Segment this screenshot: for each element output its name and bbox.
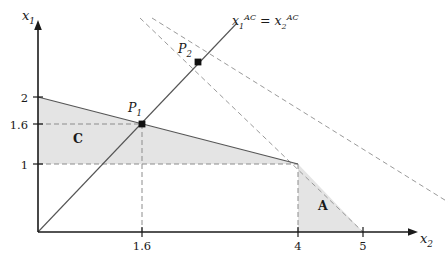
y-axis-label-sub: 1 <box>29 16 35 26</box>
point-label-p2-sub: 2 <box>185 49 191 59</box>
ray-label-lhs-sub: 1 <box>239 22 244 31</box>
y-axis-arrowhead <box>34 20 42 30</box>
diagram-svg: x1 x2 2 1.6 1 1.6 4 5 P1 P2 C A x1AC = x… <box>0 0 448 257</box>
y-tick-label-2: 2 <box>21 91 28 105</box>
ray-label-rhs-sub: 2 <box>281 22 287 31</box>
x-axis-label: x2 <box>420 231 433 249</box>
point-label-p1: P1 <box>127 100 142 118</box>
region-label-c: C <box>73 131 83 146</box>
y-tick-label-1: 1 <box>21 158 28 172</box>
figure-canvas: x1 x2 2 1.6 1 1.6 4 5 P1 P2 C A x1AC = x… <box>0 0 448 257</box>
y-axis-label: x1 <box>22 8 35 26</box>
ray-label-eq: = <box>256 13 274 28</box>
equal-allocation-ray-label: x1AC = x2AC <box>232 13 299 31</box>
dashed-steep-line <box>140 18 363 232</box>
x-tick-label-5: 5 <box>359 239 366 253</box>
point-marker-p2 <box>195 59 202 66</box>
ray-label-rhs-sup: AC <box>286 13 299 22</box>
x-axis-label-sub: 2 <box>426 239 433 249</box>
point-label-p2: P2 <box>177 41 192 59</box>
point-marker-p1 <box>139 121 146 128</box>
ray-label-rhs-base: x <box>274 13 281 28</box>
x-tick-label-1point6: 1.6 <box>133 239 151 253</box>
ray-label-lhs-sup: AC <box>243 13 256 22</box>
region-label-a: A <box>317 198 328 213</box>
y-tick-label-1point6: 1.6 <box>10 118 28 132</box>
ray-label-lhs-base: x <box>232 13 239 28</box>
region-a-shape <box>298 164 363 232</box>
point-label-p1-sub: 1 <box>136 108 141 118</box>
x-axis-arrowhead <box>408 228 418 236</box>
x-tick-label-4: 4 <box>294 239 301 253</box>
